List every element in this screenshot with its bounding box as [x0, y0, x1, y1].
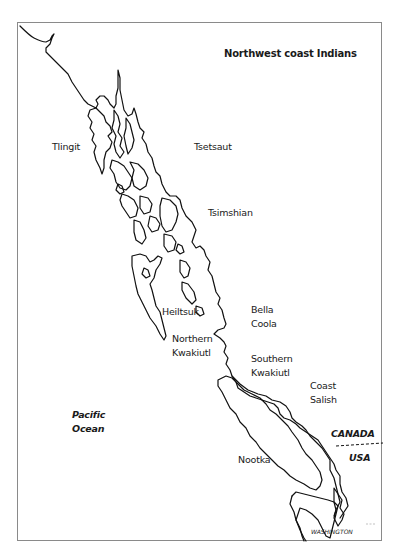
canada-usa-border	[336, 443, 383, 446]
panhandle-island-9	[134, 220, 146, 244]
coastline-map	[0, 0, 400, 559]
label-coast-salish-line2: Salish	[310, 393, 337, 407]
panhandle-island-11	[116, 184, 124, 194]
panhandle-island-7	[140, 196, 152, 214]
map-title: Northwest coast Indians	[224, 48, 357, 59]
label-tlingit: Tlingit	[52, 140, 80, 154]
panhandle-island-5	[130, 162, 148, 190]
label-tsetsaut: Tsetsaut	[194, 140, 232, 154]
panhandle-island-8	[148, 216, 160, 232]
label-southern-kwakiutl: Southern Kwakiutl	[251, 352, 293, 379]
label-coast-salish-line1: Coast	[310, 379, 337, 393]
haida-gwaii-inner	[142, 268, 150, 278]
label-heiltsuk: Heiltsuk	[162, 305, 199, 319]
central-island-1	[176, 244, 184, 254]
central-island-2	[180, 260, 190, 278]
central-island-3	[182, 282, 196, 304]
label-usa: USA	[349, 451, 370, 465]
label-bella-coola-line1: Bella	[251, 303, 277, 317]
label-pacific-ocean: Pacific Ocean	[72, 408, 105, 435]
label-tsimshian: Tsimshian	[208, 206, 253, 220]
panhandle-island-10	[160, 198, 178, 232]
label-pacific-ocean-line2: Ocean	[72, 422, 105, 436]
panhandle-island-6	[120, 194, 138, 218]
label-pacific-ocean-line1: Pacific	[72, 408, 105, 422]
label-northern-kwakiutl-line1: Northern	[172, 332, 213, 346]
panhandle-island-3	[124, 118, 134, 154]
panhandle-island-1	[88, 108, 112, 174]
vancouver-island	[218, 376, 322, 490]
label-southern-kwakiutl-line1: Southern	[251, 352, 293, 366]
label-nootka: Nootka	[238, 453, 270, 467]
label-bella-coola-line2: Coola	[251, 317, 277, 331]
haida-gwaii-island	[132, 254, 166, 340]
label-canada: CANADA	[331, 427, 375, 441]
label-bella-coola: Bella Coola	[251, 303, 277, 330]
label-northern-kwakiutl: Northern Kwakiutl	[172, 332, 213, 359]
mainland-coastline	[20, 26, 348, 518]
panhandle-island-12	[164, 234, 176, 252]
panhandle-island-2	[112, 110, 124, 158]
label-washington: WASHINGTON	[311, 525, 353, 539]
label-coast-salish: Coast Salish	[310, 379, 337, 406]
label-southern-kwakiutl-line2: Kwakiutl	[251, 366, 293, 380]
label-northern-kwakiutl-line2: Kwakiutl	[172, 346, 213, 360]
